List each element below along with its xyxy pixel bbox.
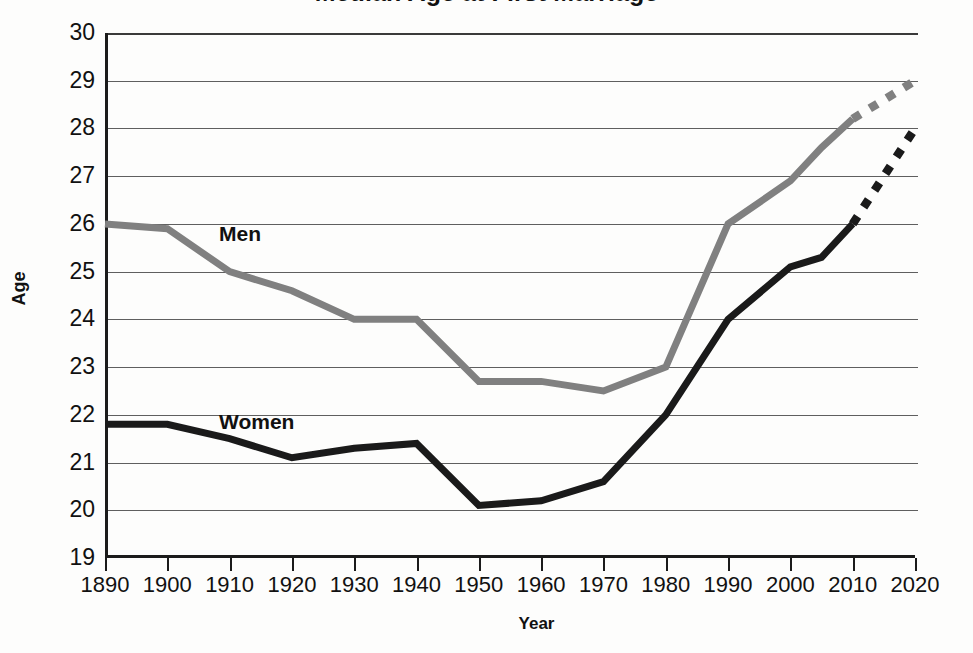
- gridline: [108, 176, 918, 177]
- y-tick-label: 21: [49, 451, 95, 474]
- series-label-women: Women: [219, 410, 294, 434]
- y-tick-label: 22: [49, 403, 95, 426]
- x-axis-title: Year: [0, 614, 973, 634]
- x-tick: [541, 558, 543, 571]
- gridline: [108, 33, 918, 35]
- gridline: [108, 463, 918, 464]
- chart-container: Median Age at First Marriage 30292827262…: [0, 0, 973, 653]
- y-tick-label: 19: [49, 546, 95, 569]
- x-tick: [666, 558, 668, 571]
- gridline: [108, 128, 918, 129]
- gridline: [108, 272, 918, 273]
- x-tick: [790, 558, 792, 571]
- x-tick: [479, 558, 481, 571]
- gridline: [108, 319, 918, 320]
- x-tick: [167, 558, 169, 571]
- y-tick-label: 24: [49, 307, 95, 330]
- x-tick: [292, 558, 294, 571]
- series-label-men: Men: [219, 222, 261, 246]
- y-tick-label: 25: [49, 260, 95, 283]
- y-tick-label: 27: [49, 164, 95, 187]
- y-tick-label: 30: [49, 21, 95, 44]
- x-tick: [603, 558, 605, 571]
- x-tick: [915, 558, 917, 571]
- plot-area: [105, 33, 915, 558]
- x-tick: [728, 558, 730, 571]
- y-axis-title: Age: [9, 254, 30, 324]
- gridline: [108, 510, 918, 511]
- y-tick-label: 26: [49, 212, 95, 235]
- y-axis-tick-labels: 302928272625242322212019: [35, 0, 95, 653]
- y-tick-label: 23: [49, 355, 95, 378]
- x-tick: [417, 558, 419, 571]
- chart-title: Median Age at First Marriage: [0, 0, 973, 7]
- gridline: [108, 81, 918, 82]
- y-tick-label: 28: [49, 116, 95, 139]
- x-tick: [354, 558, 356, 571]
- x-tick-label: 2020: [877, 572, 953, 598]
- x-tick: [105, 558, 107, 571]
- y-tick-label: 29: [49, 69, 95, 92]
- x-tick: [853, 558, 855, 571]
- x-tick: [230, 558, 232, 571]
- y-tick-label: 20: [49, 498, 95, 521]
- gridline: [108, 367, 918, 368]
